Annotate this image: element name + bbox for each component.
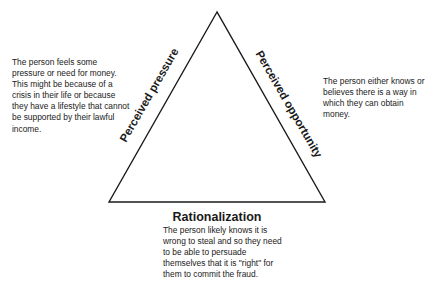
rationalization-label: Rationalization (173, 210, 262, 224)
opportunity-description: The person either knows or believes ther… (323, 76, 429, 120)
pressure-description: The person feels some pressure or need f… (12, 57, 132, 135)
rationalization-description: The person likely knows it is wrong to s… (163, 225, 283, 280)
